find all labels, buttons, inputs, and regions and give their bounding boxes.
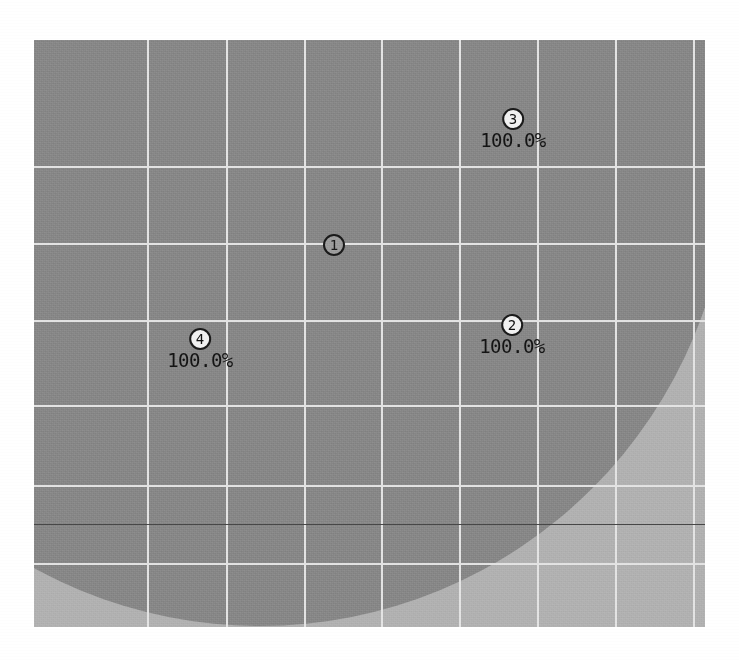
plot-area: 12100.0%3100.0%4100.0% bbox=[34, 40, 705, 627]
coverage-region-circle bbox=[34, 40, 705, 626]
threshold-line bbox=[34, 524, 705, 525]
figure-canvas: 12100.0%3100.0%4100.0% bbox=[0, 0, 739, 660]
